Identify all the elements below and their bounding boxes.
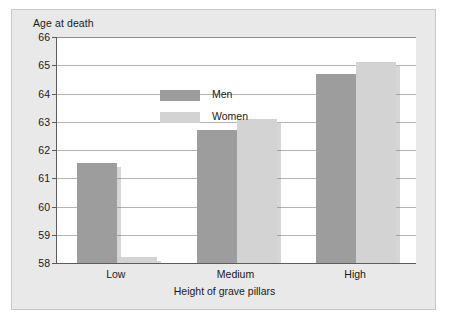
y-tick-mark-65 [52,65,57,66]
bar-shadow [396,66,400,263]
legend-label-men: Men [212,87,232,102]
y-tick-label-61: 61 [38,172,50,184]
y-tick-label-65: 65 [38,59,50,71]
y-tick-mark-60 [52,207,57,208]
bar-shadow [277,123,281,263]
bar-body [237,119,277,263]
y-tick-mark-66 [52,37,57,38]
x-tick-label-medium: Medium [217,268,254,280]
legend-swatch-women-icon [160,112,200,123]
y-tick-label-64: 64 [38,88,50,100]
bar-body [197,130,237,263]
y-tick-label-66: 66 [38,31,50,43]
y-tick-mark-61 [52,178,57,179]
bar-body [316,74,356,263]
y-tick-label-62: 62 [38,144,50,156]
y-axis-title: Age at death [33,17,94,29]
bar-women-high [356,62,396,263]
bar-shadow [117,167,121,263]
y-axis-tick-labels: 666564636261605958 [28,37,50,263]
y-tick-mark-59 [52,235,57,236]
x-tick-label-high: High [344,268,366,280]
legend-label-women: Women [212,109,248,124]
y-tick-mark-62 [52,150,57,151]
gridline-66 [57,37,416,38]
y-tick-mark-64 [52,94,57,95]
x-tick-label-low: Low [106,268,125,280]
bar-men-medium [197,130,237,263]
bar-body [117,257,157,263]
bar-women-medium [237,119,277,263]
y-tick-label-60: 60 [38,201,50,213]
figure-root: Age at death 666564636261605958 Men Wome… [0,0,449,321]
legend-swatch-men-icon [160,90,200,101]
y-tick-label-63: 63 [38,116,50,128]
x-axis-title: Height of grave pillars [0,285,449,297]
y-tick-label-59: 59 [38,229,50,241]
bar-men-low [77,163,117,263]
bar-body [356,62,396,263]
y-tick-mark-58 [52,263,57,264]
bar-shadow [157,261,161,263]
plot-area: Men Women [56,37,416,264]
bar-women-low [117,257,157,263]
bar-body [77,163,117,263]
y-tick-mark-63 [52,122,57,123]
bar-men-high [316,74,356,263]
y-tick-label-58: 58 [38,257,50,269]
